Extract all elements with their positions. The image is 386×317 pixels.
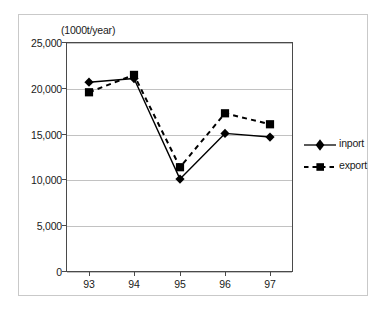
gridline-15000 bbox=[67, 135, 292, 136]
y-axis-unit-label: (1000t/year) bbox=[61, 24, 115, 36]
x-tick-label-93: 93 bbox=[74, 278, 104, 290]
legend-entry-inport[interactable]: inport bbox=[305, 134, 380, 156]
legend-label-inport: inport bbox=[339, 137, 364, 149]
gridline-20000 bbox=[67, 89, 292, 90]
line-chart: (1000t/year) 25,000 20,000 15,000 10,000… bbox=[0, 0, 386, 317]
y-tick-label-15000: 15,000 bbox=[31, 129, 62, 141]
y-tick-label-25000: 25,000 bbox=[31, 37, 62, 49]
legend-sample-inport bbox=[302, 134, 338, 156]
x-tick-mark-97 bbox=[270, 272, 271, 276]
y-tick-mark-25000 bbox=[62, 42, 66, 43]
x-tick-label-95: 95 bbox=[165, 278, 195, 290]
legend: inport export bbox=[305, 134, 380, 180]
y-tick-mark-15000 bbox=[62, 134, 66, 135]
y-tick-label-20000: 20,000 bbox=[31, 83, 62, 95]
x-tick-label-94: 94 bbox=[119, 278, 149, 290]
legend-label-export: export bbox=[339, 159, 367, 171]
x-tick-label-97: 97 bbox=[255, 278, 285, 290]
gridline-5000 bbox=[67, 226, 292, 227]
y-axis-tick-labels: 25,000 20,000 15,000 10,000 5,000 0 bbox=[0, 42, 62, 272]
y-tick-mark-10000 bbox=[62, 179, 66, 180]
plot-area bbox=[66, 42, 293, 272]
legend-sample-export bbox=[302, 156, 338, 178]
y-tick-mark-5000 bbox=[62, 225, 66, 226]
y-tick-label-5000: 5,000 bbox=[37, 220, 62, 232]
y-tick-mark-20000 bbox=[62, 88, 66, 89]
gridline-10000 bbox=[67, 180, 292, 181]
x-tick-mark-93 bbox=[89, 272, 90, 276]
gridline-25000 bbox=[67, 43, 292, 44]
y-tick-mark-0 bbox=[62, 271, 66, 272]
x-tick-mark-94 bbox=[134, 272, 135, 276]
legend-entry-export[interactable]: export bbox=[305, 156, 380, 178]
x-tick-label-96: 96 bbox=[210, 278, 240, 290]
y-tick-label-10000: 10,000 bbox=[31, 174, 62, 186]
x-tick-mark-95 bbox=[180, 272, 181, 276]
y-tick-label-0: 0 bbox=[56, 266, 62, 278]
x-tick-mark-96 bbox=[225, 272, 226, 276]
